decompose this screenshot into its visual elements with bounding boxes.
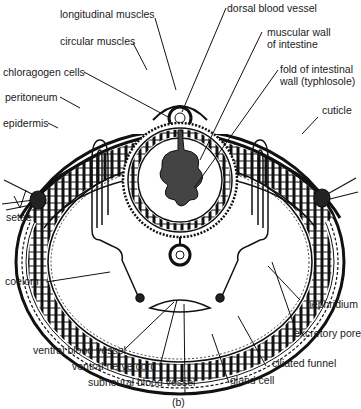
label-typhlosole-line1: fold of intestinal: [280, 63, 353, 75]
label-nephridium: nephridium: [306, 298, 358, 310]
label-ciliated-funnel: ciliated funnel: [272, 357, 336, 369]
label-gland-cell: gland cell: [230, 374, 274, 386]
label-ventral-nerve-cord: ventral nerve cord: [72, 360, 156, 372]
label-dorsal-blood-vessel: dorsal blood vessel: [227, 2, 317, 14]
label-excretory-pore: excretory pore: [294, 327, 361, 339]
setae-right: [314, 178, 358, 207]
ventral-nerve-cord: [150, 300, 210, 312]
figure-caption: (b): [172, 396, 185, 408]
label-circular-muscles: circular muscles: [60, 35, 135, 47]
label-ventral-blood-vessel: ventral blood vessel: [33, 344, 126, 356]
label-coelom: coelom: [5, 275, 39, 287]
label-setae: setae: [6, 211, 32, 223]
label-longitudinal-muscles: longitudinal muscles: [60, 8, 155, 20]
label-peritoneum: peritoneum: [5, 91, 58, 103]
label-chloragogen-cells: chloragogen cells: [3, 66, 85, 78]
label-epidermis: epidermis: [3, 117, 49, 129]
label-typhlosole-line2: wall (typhlosole): [280, 75, 355, 87]
label-muscular-wall-line1: muscular wall: [267, 26, 331, 38]
label-muscular-wall-line2: of intestine: [267, 38, 318, 50]
label-cuticle: cuticle: [322, 104, 352, 116]
label-subneural-blood-vessel: subneural blood vessel: [88, 376, 195, 388]
